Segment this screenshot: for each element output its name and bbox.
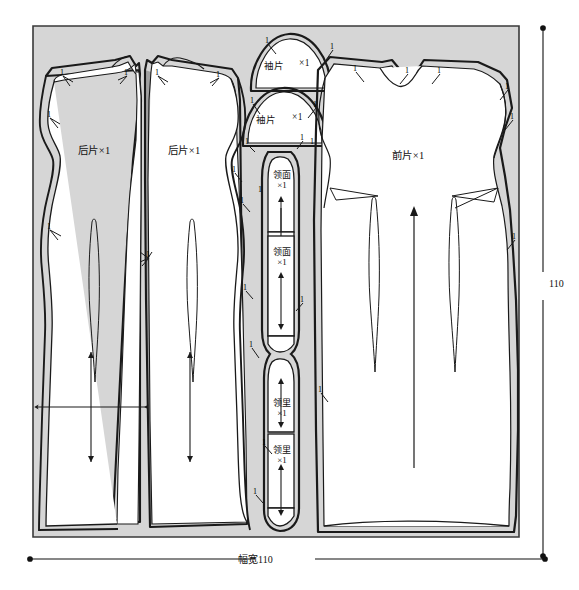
back-panel-right: [140, 56, 250, 530]
piece-label-collar-lining-upper: 领里 ×1: [270, 398, 294, 418]
seam-allowance-mark: 1: [47, 222, 51, 231]
collar-face-lower-line2: ×1: [270, 257, 294, 267]
piece-label-collar-lining-lower: 领里 ×1: [270, 445, 294, 465]
seam-allowance-mark: 1: [216, 70, 220, 79]
collar-lining-upper-line1: 领里: [270, 398, 294, 408]
seam-allowance-mark: 1: [353, 64, 357, 73]
seam-allowance-mark: 1: [265, 36, 269, 45]
piece-label-sleeve-lower: 袖片: [256, 112, 277, 126]
seam-allowance-mark: 1: [243, 283, 247, 292]
piece-label-back-panel-right: 后片×1: [168, 142, 201, 157]
seam-allowance-mark: 1: [155, 68, 159, 77]
collar-lining-lower-line2: ×1: [270, 455, 294, 465]
seam-allowance-mark: 1: [253, 487, 257, 496]
piece-label-sleeve-upper: 袖片: [264, 58, 285, 72]
collar-lining-lower-line1: 领里: [270, 445, 294, 455]
seam-allowance-mark: 1: [250, 96, 254, 105]
seam-allowance-mark: 1: [232, 165, 236, 174]
layout-canvas: [0, 0, 579, 590]
seam-allowance-mark: 1: [512, 232, 516, 241]
seam-allowance-mark: 1: [510, 112, 514, 121]
seam-allowance-mark: 1: [300, 133, 304, 142]
seam-allowance-mark: 1: [405, 66, 409, 75]
collar-face-lower-line1: 领面: [270, 247, 294, 257]
collar-face-upper-line1: 领面: [270, 170, 294, 180]
seam-allowance-mark: 1: [318, 385, 322, 394]
piece-label-sleeve-lower-qty: ×1: [292, 112, 303, 122]
collar-face-upper-line2: ×1: [270, 180, 294, 190]
seam-allowance-mark: 1: [47, 110, 51, 119]
seam-allowance-mark: 1: [330, 42, 334, 51]
dimension-label-bottom: 幅宽110: [238, 551, 273, 566]
seam-allowance-mark: 1: [313, 100, 317, 109]
piece-label-sleeve-upper-qty: ×1: [299, 58, 310, 68]
seam-allowance-mark: 1: [240, 196, 244, 205]
collar-lining-upper-line2: ×1: [270, 408, 294, 418]
seam-allowance-mark: 1: [437, 66, 441, 75]
seam-allowance-mark: 1: [262, 438, 266, 447]
collar-lining-upper: [268, 359, 294, 432]
front-panel: [314, 57, 518, 532]
piece-label-collar-face-upper: 领面 ×1: [270, 170, 294, 190]
piece-label-collar-face-lower: 领面 ×1: [270, 247, 294, 267]
seam-allowance-mark: 1: [146, 250, 150, 259]
piece-label-front-panel: 前片×1: [392, 147, 425, 162]
pattern-layout-diagram: 后片×1 后片×1 袖片 ×1 袖片 ×1 领面 ×1 领面 ×1 领里 ×1 …: [0, 0, 579, 590]
seam-allowance-mark: 1: [310, 137, 314, 146]
piece-label-back-panel-left: 后片×1: [78, 142, 111, 157]
dimension-label-right: 110: [549, 278, 564, 289]
seam-allowance-mark: 1: [245, 137, 249, 146]
seam-allowance-mark: 1: [60, 68, 64, 77]
seam-allowance-mark: 1: [258, 185, 262, 194]
seam-allowance-mark: 1: [300, 295, 304, 304]
seam-allowance-mark: 1: [124, 68, 128, 77]
seam-allowance-mark: 1: [505, 82, 509, 91]
seam-allowance-mark: 1: [249, 340, 253, 349]
